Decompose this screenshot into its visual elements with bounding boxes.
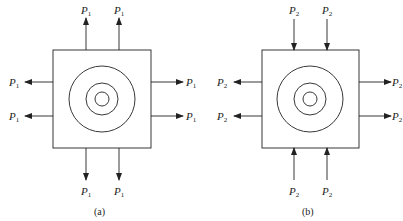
inner-circle (95, 92, 109, 106)
panel-caption: (a) (94, 206, 105, 218)
panel-caption: (b) (302, 206, 314, 218)
inner-circle (303, 92, 317, 106)
force-label: P2 (391, 110, 403, 124)
force-label: P1 (80, 4, 92, 18)
force-label: P2 (288, 4, 300, 18)
panel-b (234, 19, 391, 180)
force-label: P1 (185, 110, 197, 124)
panel-b-labels: P2 P2 P2 P2 P2 P2 P2 P2 (b) (216, 4, 403, 218)
force-label: P2 (216, 110, 228, 124)
force-label: P1 (8, 110, 20, 124)
panel-a (25, 18, 183, 180)
outer-circle (277, 66, 343, 132)
force-label: P1 (113, 185, 125, 199)
diagram-canvas: P1 P1 P1 P1 P1 P1 P1 P1 (a) P2 P2 P2 P2 … (0, 0, 403, 221)
force-label: P1 (113, 4, 125, 18)
force-label: P1 (185, 76, 197, 90)
force-label: P2 (288, 185, 300, 199)
force-label: P1 (8, 76, 20, 90)
outer-circle (69, 66, 135, 132)
force-label: P2 (321, 4, 333, 18)
force-label: P1 (80, 185, 92, 199)
panel-a-labels: P1 P1 P1 P1 P1 P1 P1 P1 (a) (8, 4, 197, 218)
force-label: P2 (216, 76, 228, 90)
force-label: P2 (321, 185, 333, 199)
force-label: P2 (391, 76, 403, 90)
square-plate (262, 50, 359, 148)
square-plate (53, 50, 151, 148)
middle-circle (86, 83, 118, 115)
middle-circle (294, 83, 326, 115)
